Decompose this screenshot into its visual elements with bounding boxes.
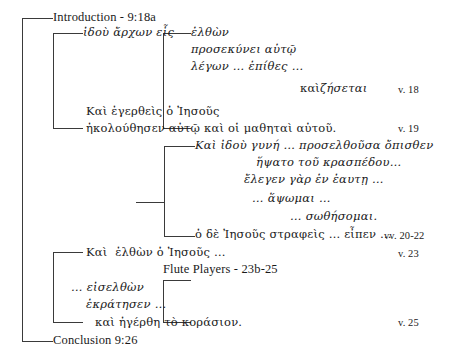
bracket-middle-left-tick bbox=[136, 202, 164, 203]
bracket-upper-spine bbox=[53, 33, 54, 128]
clause-kai-idou-gyne: Καὶ ἰδοὺ γυνή … προσελθοῦσα ὄπισθεν bbox=[195, 140, 433, 152]
conjunction-kai: καὶ bbox=[300, 83, 320, 95]
clause-ho-de-iesous-strapheis: ὁ δὲ Ἰησοῦς στραφεὶς … εἶπεν … bbox=[195, 229, 392, 241]
heading-introduction: Introduction - 9:18a bbox=[53, 11, 156, 24]
clause-kai-egertheis-ho-iesous: Καὶ ἐγερθεὶς ὁ Ἰησοῦς bbox=[86, 106, 220, 118]
clause-kai-egerthe-to-korasion: καὶ ἠγέρθη τὸ κοράσιον. bbox=[95, 317, 242, 329]
bracket-upper-bottom-arm bbox=[53, 128, 83, 129]
clause-kai-elthon-ho-iesous: Καὶ ἐλθὼν ὁ Ἰησοῦς … bbox=[86, 247, 226, 259]
bracket-outer-top-arm bbox=[22, 18, 53, 19]
bracket-upper-top-arm bbox=[53, 33, 83, 34]
bracket-outer-bottom-arm bbox=[22, 341, 53, 342]
bracket-middle-spine bbox=[164, 146, 165, 236]
verse-ref-23: v. 23 bbox=[398, 249, 419, 260]
clause-legon-epithes: λέγων … ἐπίθες … bbox=[191, 61, 303, 73]
bracket-lower-spine bbox=[53, 252, 54, 322]
bracket-lower-inner-top-arm bbox=[163, 280, 191, 281]
bracket-lower-top-arm bbox=[53, 252, 83, 253]
verse-ref-25: v. 25 bbox=[398, 318, 419, 329]
clause-ekolouthesen-auto: ἠκολούθησεν αὐτῷ καὶ οἱ μαθηταὶ αὐτοῦ. bbox=[86, 123, 336, 135]
clause-epsato-tou-kraspedou: ἥψατο τοῦ κρασπέδου… bbox=[256, 157, 402, 169]
bracket-middle-bottom-arm bbox=[164, 236, 195, 237]
clause-elegen-gar-en-eaute: ἔλεγεν γὰρ ἐν ἑαυτῃ … bbox=[244, 174, 384, 186]
heading-conclusion: Conclusion 9:26 bbox=[53, 334, 138, 347]
clause-ekratesen: ἐκράτησεν … bbox=[86, 299, 166, 311]
clause-eiselthon: … εἰσελθὼν bbox=[71, 282, 144, 294]
verse-ref-20-22: vv. 20-22 bbox=[384, 231, 424, 242]
bracket-outer-spine bbox=[22, 18, 23, 341]
clause-prosekynei-auto: προσεκύνει αὐτῷ bbox=[191, 44, 296, 56]
clause-idou-archon-heis: ἰδοὺ ἄρχων εἷς bbox=[83, 27, 174, 39]
verse-ref-18: v. 18 bbox=[398, 85, 419, 96]
discourse-diagram: Introduction - 9:18a ἰδοὺ ἄρχων εἷς ἐλθὼ… bbox=[0, 0, 453, 361]
clause-elthon: ἐλθὼν bbox=[191, 27, 229, 39]
verse-ref-19: v. 19 bbox=[398, 124, 419, 135]
heading-flute-players: Flute Players - 23b-25 bbox=[163, 263, 278, 276]
clause-sothesomai: … σωθήσομαι. bbox=[290, 211, 377, 223]
bracket-middle-top-arm bbox=[164, 146, 195, 147]
bracket-lower-bottom-arm bbox=[53, 322, 83, 323]
clause-zesetai: ζήσεται bbox=[320, 83, 368, 95]
clause-apsomai: … ἅψωμαι … bbox=[252, 193, 331, 205]
